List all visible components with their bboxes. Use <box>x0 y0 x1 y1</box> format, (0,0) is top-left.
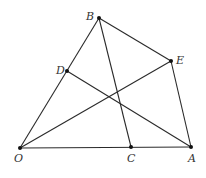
segment-OA <box>20 147 191 148</box>
label-D: D <box>55 64 65 77</box>
segment-BC <box>99 18 131 147</box>
points-group <box>18 16 193 150</box>
label-O: O <box>14 152 23 165</box>
point-D <box>65 69 69 73</box>
label-B: B <box>85 10 94 23</box>
point-B <box>97 16 101 20</box>
point-C <box>129 145 133 149</box>
label-E: E <box>175 54 184 67</box>
point-A <box>189 145 193 149</box>
label-A: A <box>187 152 196 165</box>
label-C: C <box>127 152 136 165</box>
segment-OE <box>20 61 171 148</box>
segments-group <box>20 18 191 148</box>
segment-DA <box>67 71 191 147</box>
point-E <box>169 59 173 63</box>
geometry-diagram: O A C B E D <box>0 0 206 178</box>
segment-EA <box>171 61 191 147</box>
point-O <box>18 146 22 150</box>
segment-BE <box>99 18 171 61</box>
labels-group: O A C B E D <box>14 10 196 165</box>
